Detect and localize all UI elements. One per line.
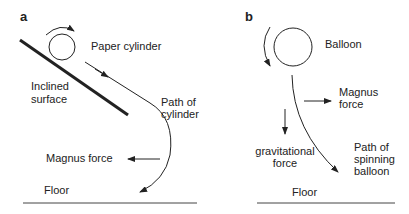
paper-cylinder-label: Paper cylinder	[91, 40, 161, 52]
cylinder-path	[85, 62, 171, 192]
path-label-2: cylinder	[161, 108, 199, 120]
balloon-label: Balloon	[325, 38, 362, 50]
path-label-b-3: balloon	[354, 165, 389, 177]
floor-label-b: Floor	[292, 186, 317, 198]
path-label-b-2: spinning	[354, 153, 395, 165]
balloon	[274, 28, 312, 66]
path-label-b-1: Path of	[354, 141, 389, 153]
inclined-label-1: Inclined	[31, 80, 69, 92]
paper-cylinder	[49, 34, 75, 60]
spin-arrow-icon	[264, 27, 270, 66]
magnus-force-label: Magnus force	[46, 152, 113, 164]
inclined-label-2: surface	[31, 93, 67, 105]
gravity-label-1: gravitational	[243, 145, 327, 157]
magnus-label-1: Magnus	[339, 86, 378, 98]
path-label-1: Path of	[161, 96, 196, 108]
gravity-label-2: force	[243, 157, 327, 169]
panel-label-a: a	[20, 9, 27, 24]
panel-label-b: b	[245, 9, 253, 24]
magnus-label-2: force	[339, 98, 363, 110]
direction-arrow-icon	[95, 69, 108, 77]
floor-label-a: Floor	[44, 184, 69, 196]
